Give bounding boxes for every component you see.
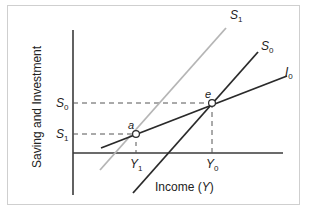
point-a-label: a: [128, 119, 134, 131]
curve-i0-label: I0: [285, 65, 293, 81]
s0-curve: [133, 52, 258, 193]
y1-tick-label: Y1: [130, 157, 143, 173]
i0-curve: [101, 76, 287, 148]
x-axis-title: Income (Y): [155, 180, 214, 194]
y0-tick-label: Y0: [206, 157, 219, 173]
s0-tick-label: S0: [56, 96, 69, 112]
point-e-marker: [209, 100, 216, 107]
curve-s1-label: S1: [230, 8, 243, 24]
y-axis-title: Saving and Investment: [30, 45, 44, 168]
point-e-label: e: [205, 88, 211, 100]
s1-tick-label: S1: [56, 127, 69, 143]
curve-s0-label: S0: [261, 39, 274, 55]
point-a-marker: [133, 131, 140, 138]
saving-investment-diagram: a e S1 S0 I0 S0 S1 Y1 Y0 Income (Y) Savi…: [0, 0, 310, 215]
